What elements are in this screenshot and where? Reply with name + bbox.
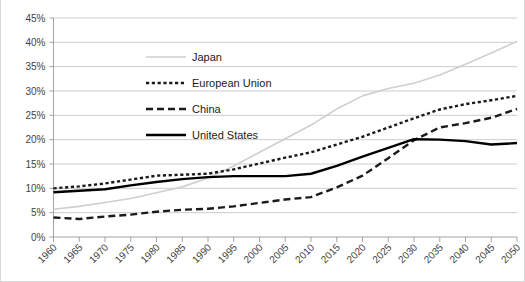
x-tick-label: 2025: [370, 241, 394, 265]
x-tick-label: 1980: [138, 241, 162, 265]
y-tick-label: 45%: [25, 13, 45, 24]
y-tick-label: 30%: [25, 86, 45, 97]
y-tick-label: 0%: [31, 232, 46, 243]
x-tick-label: 1970: [87, 241, 111, 265]
x-tick-label: 1975: [113, 241, 137, 265]
x-tick-label: 2040: [447, 241, 471, 265]
y-axis: 0%5%10%15%20%25%30%35%40%45%: [25, 13, 53, 243]
x-tick-label: 2035: [422, 241, 446, 265]
x-tick-label: 1960: [35, 241, 59, 265]
x-tick-label: 2015: [319, 241, 343, 265]
series-line-european-union: [54, 96, 518, 188]
y-tick-label: 10%: [25, 183, 45, 194]
legend-label-japan: Japan: [192, 51, 222, 63]
series-line-united-states: [54, 139, 518, 192]
x-tick-label: 2030: [396, 241, 420, 265]
series-lines: [54, 41, 518, 219]
chart-legend: JapanEuropean UnionChinaUnited States: [146, 51, 272, 141]
x-tick-label: 2050: [499, 241, 523, 265]
y-tick-label: 25%: [25, 110, 45, 121]
y-tick-label: 5%: [31, 207, 46, 218]
legend-label-european-union: European Union: [192, 77, 272, 89]
chart-figure: 0%5%10%15%20%25%30%35%40%45% 19601965197…: [0, 0, 525, 282]
x-tick-label: 2010: [293, 241, 317, 265]
x-tick-label: 2000: [241, 241, 265, 265]
x-axis: 1960196519701975198019851990199520002005…: [35, 237, 522, 265]
y-tick-label: 35%: [25, 61, 45, 72]
line-chart: 0%5%10%15%20%25%30%35%40%45% 19601965197…: [1, 0, 525, 282]
legend-label-china: China: [192, 103, 222, 115]
x-tick-label: 2045: [473, 241, 497, 265]
x-tick-label: 1995: [216, 241, 240, 265]
x-tick-label: 1985: [164, 241, 188, 265]
x-tick-label: 1965: [61, 241, 85, 265]
x-tick-label: 1990: [190, 241, 214, 265]
legend-label-united-states: United States: [192, 129, 259, 141]
x-tick-label: 2020: [344, 241, 368, 265]
y-tick-label: 15%: [25, 159, 45, 170]
y-tick-label: 20%: [25, 134, 45, 145]
x-tick-label: 2005: [267, 241, 291, 265]
y-tick-label: 40%: [25, 37, 45, 48]
gridlines: [54, 18, 518, 213]
